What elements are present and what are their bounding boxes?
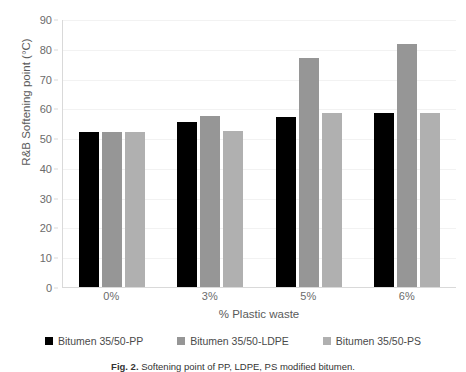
- bar: [374, 113, 394, 287]
- y-tick-label: 30: [40, 193, 52, 205]
- bar-group: [161, 20, 259, 287]
- bar: [223, 131, 243, 287]
- legend-swatch-icon: [45, 337, 53, 345]
- caption-text: Softening point of PP, LDPE, PS modified…: [141, 361, 355, 372]
- x-tick-label: 0%: [62, 290, 161, 302]
- y-tick-mark: [54, 228, 58, 229]
- y-tick-label: 70: [40, 74, 52, 86]
- y-tick-label: 50: [40, 133, 52, 145]
- bar: [125, 132, 145, 287]
- bar: [200, 116, 220, 287]
- y-tick-mark: [54, 109, 58, 110]
- legend-swatch-icon: [177, 337, 185, 345]
- y-tick-mark: [54, 20, 58, 21]
- x-axis-tick-labels: 0%3%5%6%: [62, 290, 456, 302]
- bar-group: [358, 20, 456, 287]
- legend-label: Bitumen 35/50-PS: [336, 335, 421, 347]
- bar-group: [260, 20, 358, 287]
- legend-item[interactable]: Bitumen 35/50-PP: [45, 335, 143, 347]
- legend-item[interactable]: Bitumen 35/50-PS: [323, 335, 421, 347]
- legend-label: Bitumen 35/50-PP: [58, 335, 143, 347]
- y-tick-label: 60: [40, 103, 52, 115]
- bar: [79, 132, 99, 287]
- y-tick-label: 80: [40, 44, 52, 56]
- y-tick-label: 20: [40, 222, 52, 234]
- y-tick-mark: [54, 258, 58, 259]
- y-tick-mark: [54, 288, 58, 289]
- bar: [102, 132, 122, 287]
- x-tick-label: 5%: [259, 290, 358, 302]
- bar: [177, 122, 197, 287]
- bar: [322, 113, 342, 287]
- x-tick-label: 6%: [358, 290, 457, 302]
- y-tick-mark: [54, 139, 58, 140]
- legend-label: Bitumen 35/50-LDPE: [190, 335, 289, 347]
- y-tick-label: 90: [40, 14, 52, 26]
- caption-label: Fig. 2.: [111, 361, 138, 372]
- bar: [299, 58, 319, 287]
- y-tick-mark: [54, 79, 58, 80]
- y-tick-label: 10: [40, 252, 52, 264]
- bar-groups: [63, 20, 456, 287]
- legend-swatch-icon: [323, 337, 331, 345]
- y-tick-label: 40: [40, 163, 52, 175]
- y-tick-mark: [54, 198, 58, 199]
- figure-caption: Fig. 2. Softening point of PP, LDPE, PS …: [0, 361, 466, 372]
- chart-legend: Bitumen 35/50-PPBitumen 35/50-LDPEBitume…: [0, 335, 466, 347]
- y-axis-tick-labels: 0102030405060708090: [0, 20, 58, 288]
- figure-softening-point: R&B Softening point (°C) 010203040506070…: [0, 0, 466, 372]
- plot-area: [62, 20, 456, 288]
- y-tick-mark: [54, 49, 58, 50]
- bar: [420, 113, 440, 287]
- legend-item[interactable]: Bitumen 35/50-LDPE: [177, 335, 289, 347]
- x-tick-label: 3%: [161, 290, 260, 302]
- x-axis-title: % Plastic waste: [62, 308, 456, 320]
- y-tick-label: 0: [46, 282, 52, 294]
- bar: [276, 117, 296, 287]
- bar-group: [63, 20, 161, 287]
- y-tick-mark: [54, 168, 58, 169]
- bar: [397, 44, 417, 287]
